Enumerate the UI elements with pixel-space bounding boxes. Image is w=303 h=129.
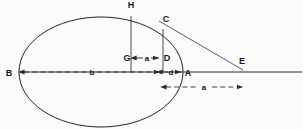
dimension-label-d: d: [169, 68, 174, 77]
point-label-c: C: [163, 14, 170, 24]
point-label-e: E: [239, 56, 245, 66]
figure-background: [0, 0, 303, 129]
point-label-a-right: A: [185, 68, 192, 78]
dimension-label-b: b: [90, 68, 95, 77]
point-label-h: H: [128, 0, 135, 10]
point-label-g: G: [123, 53, 130, 63]
dimension-label-a-upper: a: [145, 54, 150, 63]
dimension-label-a-lower: a: [202, 83, 207, 92]
point-label-d-upper: D: [164, 53, 171, 63]
point-label-b-left: B: [6, 68, 13, 78]
ellipse-diagram: B H C G D A E a b d a: [0, 0, 303, 129]
diagram-canvas: B H C G D A E a b d a: [0, 0, 303, 129]
